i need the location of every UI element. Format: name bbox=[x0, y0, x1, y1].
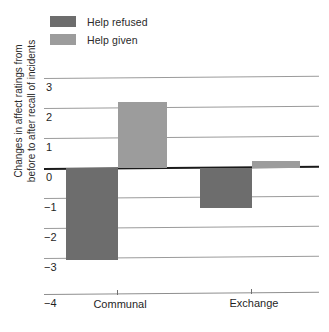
bar-chart-figure: Help refused Help given Changes in affec… bbox=[0, 0, 329, 332]
chart-legend: Help refused Help given bbox=[50, 14, 200, 50]
gridline-neg4 bbox=[44, 292, 319, 295]
legend-label-help-given: Help given bbox=[87, 34, 138, 46]
y-axis-title-line-1: Changes in affect ratings from bbox=[12, 44, 25, 177]
y-tick-label-neg3: −3 bbox=[44, 261, 57, 273]
plot-area: 3 2 1 0 −1 −2 −3 −4 Communal Exchange bbox=[44, 62, 319, 302]
x-category-label-communal: Communal bbox=[80, 298, 160, 310]
y-tick-label-neg4: −4 bbox=[44, 297, 57, 309]
legend-label-help-refused: Help refused bbox=[87, 16, 148, 28]
y-axis-title: Changes in affect ratings from before to… bbox=[9, 6, 41, 216]
x-tick-communal bbox=[117, 290, 118, 295]
y-tick-label-neg1: −1 bbox=[44, 201, 57, 213]
y-tick-label-1: 1 bbox=[46, 141, 52, 153]
gridline-1 bbox=[44, 136, 319, 139]
y-tick-label-0: 0 bbox=[46, 171, 52, 183]
bar-communal-help-given bbox=[118, 102, 167, 168]
x-category-label-exchange: Exchange bbox=[214, 297, 294, 309]
legend-swatch-help-given bbox=[50, 34, 76, 45]
gridline-3 bbox=[44, 76, 319, 79]
gridline-2 bbox=[44, 106, 319, 109]
bar-exchange-help-refused bbox=[200, 168, 252, 208]
bar-exchange-help-given bbox=[252, 161, 300, 168]
x-tick-exchange bbox=[251, 289, 252, 294]
y-tick-label-2: 2 bbox=[46, 111, 52, 123]
legend-swatch-help-refused bbox=[50, 16, 76, 27]
y-tick-label-neg2: −2 bbox=[44, 231, 57, 243]
legend-item-help-refused: Help refused bbox=[50, 14, 200, 29]
y-tick-label-3: 3 bbox=[46, 81, 52, 93]
legend-item-help-given: Help given bbox=[50, 32, 200, 47]
y-axis-title-line-2: before to after recall of incidents bbox=[25, 40, 38, 182]
bar-communal-help-refused bbox=[66, 168, 118, 260]
